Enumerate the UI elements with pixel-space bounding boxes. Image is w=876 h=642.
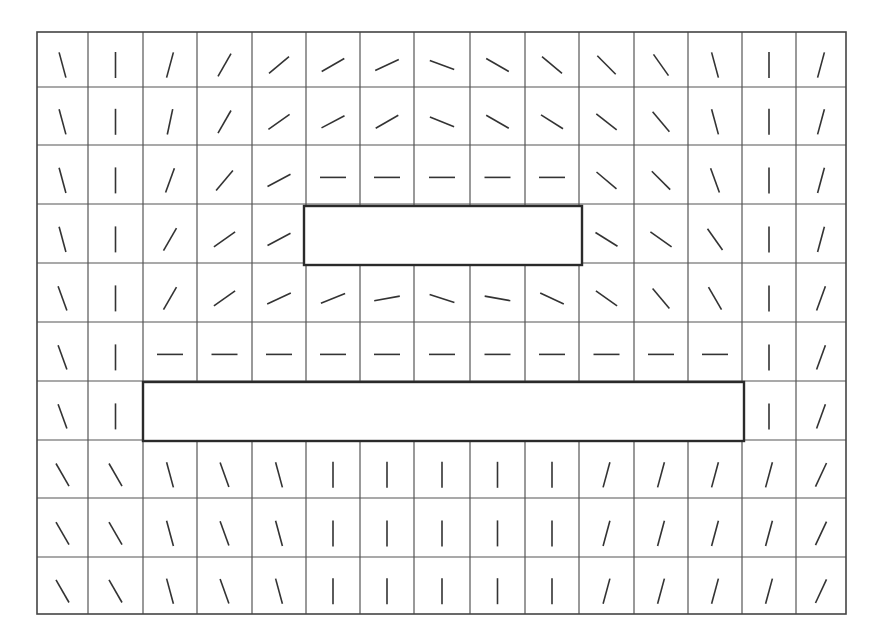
orientation-segment	[596, 291, 617, 306]
orientation-segment	[816, 522, 827, 546]
orientation-segment	[109, 580, 122, 603]
orientation-segment	[766, 462, 773, 487]
orientation-segment	[218, 111, 231, 134]
orientation-segment	[58, 404, 67, 428]
orientation-segment	[268, 114, 289, 129]
orientation-segment	[430, 117, 454, 127]
orientation-segment	[541, 115, 563, 129]
orientation-segment	[59, 168, 66, 193]
orientation-segment	[817, 345, 826, 369]
orientation-segment	[658, 462, 665, 487]
upper-obstacle	[304, 206, 582, 265]
orientation-segment	[56, 580, 69, 603]
orientation-segment	[59, 227, 66, 252]
orientation-segment	[58, 345, 67, 369]
orientation-segment	[430, 294, 455, 302]
orientation-segment	[59, 52, 66, 77]
orientation-segment	[597, 56, 615, 74]
orientation-segment	[268, 174, 291, 186]
orientation-segment	[712, 52, 719, 77]
orientation-segment	[268, 233, 291, 245]
orientation-segment	[269, 57, 289, 74]
obstacles	[143, 206, 744, 441]
orientation-segment	[167, 462, 174, 487]
lower-obstacle	[143, 382, 744, 441]
orientation-segment	[218, 54, 231, 77]
orientation-segment	[653, 112, 670, 132]
orientation-segment	[220, 463, 229, 487]
orientation-segment	[214, 232, 235, 247]
orientation-segment	[430, 61, 454, 70]
orientation-segment	[220, 521, 229, 545]
orientation-segment	[376, 115, 399, 128]
orientation-segment	[542, 57, 562, 74]
orientation-segment	[486, 59, 509, 72]
orientation-segment	[712, 579, 719, 604]
orientation-segment	[58, 286, 67, 310]
orientation-segment	[56, 464, 69, 487]
orientation-segment	[596, 233, 618, 247]
orientation-segment	[708, 229, 723, 250]
orientation-field-diagram	[0, 0, 876, 642]
orientation-segment	[603, 521, 610, 546]
orientation-segment	[766, 579, 773, 604]
orientation-segment	[267, 293, 291, 304]
orientation-segment	[59, 109, 66, 134]
orientation-segment	[818, 227, 825, 252]
orientation-segment	[712, 462, 719, 487]
orientation-segment	[166, 168, 175, 192]
orientation-segment	[167, 109, 172, 134]
orientation-segment	[603, 579, 610, 604]
orientation-segment	[375, 60, 399, 71]
orientation-segment	[818, 168, 825, 193]
orientation-segment	[276, 521, 283, 546]
orientation-segment	[817, 404, 826, 428]
orientation-segment	[817, 286, 826, 310]
orientation-segment	[322, 116, 345, 128]
orientation-segment	[597, 172, 617, 189]
orientation-segment	[167, 521, 174, 546]
orientation-segment	[374, 296, 400, 301]
orientation-segment	[167, 579, 174, 604]
orientation-segment	[596, 114, 616, 130]
orientation-segment	[818, 52, 825, 77]
orientation-segment	[712, 521, 719, 546]
orientation-segment	[654, 54, 669, 75]
orientation-segment	[650, 232, 671, 247]
orientation-segment	[276, 462, 283, 487]
orientation-segment	[486, 115, 509, 128]
orientation-segment	[167, 52, 174, 77]
orientation-segment	[603, 462, 610, 487]
orientation-segment	[322, 59, 345, 72]
orientation-segment	[653, 288, 670, 308]
orientation-segment	[109, 464, 122, 487]
orientation-segment	[766, 521, 773, 546]
orientation-segment	[709, 287, 722, 310]
orientation-segment	[712, 109, 719, 134]
orientation-segment	[658, 579, 665, 604]
orientation-segment	[321, 294, 345, 304]
orientation-segment	[220, 579, 229, 603]
orientation-segment	[816, 463, 827, 487]
orientation-segment	[711, 168, 720, 192]
orientation-segment	[816, 579, 827, 603]
orientation-segment	[109, 522, 122, 545]
orientation-segments	[56, 52, 827, 604]
orientation-segment	[485, 296, 511, 301]
orientation-segment	[276, 579, 283, 604]
orientation-segment	[652, 171, 670, 189]
orientation-segment	[540, 293, 564, 304]
orientation-segment	[164, 287, 177, 310]
orientation-segment	[164, 228, 177, 251]
orientation-segment	[56, 522, 69, 545]
orientation-segment	[818, 109, 825, 134]
orientation-segment	[216, 170, 233, 190]
orientation-segment	[658, 521, 665, 546]
orientation-segment	[214, 291, 235, 306]
